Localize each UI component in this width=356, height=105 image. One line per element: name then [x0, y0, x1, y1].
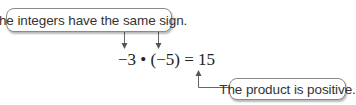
callout-text: The integers have the same sign.	[0, 13, 187, 28]
arrowhead-up-icon	[196, 70, 202, 76]
multiplication-equation: −3 • (−5) = 15	[118, 50, 215, 70]
arrowhead-down-icon	[156, 43, 162, 49]
callout-text: The product is positive.	[219, 82, 355, 97]
same-sign-callout: The integers have the same sign.	[6, 8, 172, 32]
arrowhead-down-icon	[122, 43, 128, 49]
product-positive-callout: The product is positive.	[229, 78, 346, 100]
